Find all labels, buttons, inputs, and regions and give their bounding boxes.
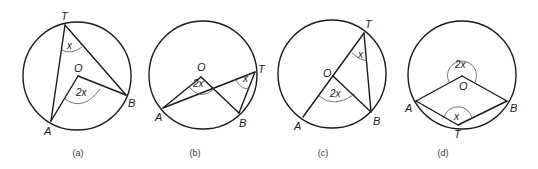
- circle: [149, 21, 257, 129]
- chord-TB: [364, 33, 371, 112]
- diameter-TA: [303, 33, 364, 117]
- angle-label-x: x: [357, 49, 364, 60]
- caption-d: (d): [438, 148, 449, 158]
- point-label-T: T: [61, 10, 69, 22]
- radius-OA: [416, 76, 462, 101]
- point-label-A: A: [404, 102, 412, 114]
- point-label-T: T: [258, 63, 266, 75]
- angle-label-x: x: [453, 111, 460, 122]
- point-label-B: B: [373, 115, 380, 127]
- caption-c: (c): [318, 148, 329, 158]
- radius-OB: [201, 77, 239, 113]
- angle-label-2x: 2x: [192, 78, 205, 89]
- angle-label-x: x: [66, 40, 73, 51]
- angle-label-2x: 2x: [329, 88, 342, 99]
- point-label-O: O: [459, 80, 468, 92]
- diagram-a: T O A B x 2x (a): [23, 10, 135, 158]
- caption-a: (a): [73, 148, 84, 158]
- point-label-O: O: [323, 67, 332, 79]
- angle-label-2x: 2x: [75, 87, 88, 98]
- chord-TA: [51, 25, 65, 121]
- radius-OA: [51, 76, 78, 121]
- angle-label-2x: 2x: [454, 59, 467, 70]
- point-label-O: O: [74, 62, 83, 74]
- angle-label-x: x: [242, 73, 249, 84]
- point-label-A: A: [154, 111, 162, 123]
- point-label-A: A: [293, 120, 301, 132]
- point-label-B: B: [128, 97, 135, 109]
- diagram-b: O T A B 2x x (b): [149, 21, 266, 158]
- caption-b: (b): [190, 148, 201, 158]
- chord-TA: [416, 101, 458, 125]
- circle: [408, 21, 516, 129]
- point-label-T: T: [454, 128, 462, 140]
- diagram-d: 2x O A B x T (d): [404, 21, 517, 158]
- point-label-A: A: [43, 125, 51, 137]
- point-label-T: T: [365, 18, 373, 30]
- point-label-B: B: [510, 102, 517, 114]
- radius-OB: [462, 76, 507, 101]
- chord-TA: [163, 72, 255, 108]
- chord-TB: [65, 25, 126, 95]
- point-label-B: B: [239, 117, 246, 129]
- point-label-O: O: [197, 61, 206, 73]
- diagram-c: T O A B x 2x (c): [278, 18, 386, 158]
- circle-theorem-figure: T O A B x 2x (a) O T A B 2x x (b) T O A …: [0, 0, 538, 169]
